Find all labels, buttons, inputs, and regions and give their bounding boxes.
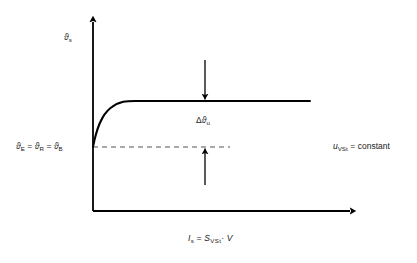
u-vst-value: constant: [358, 141, 390, 151]
y-axis-symbol: ϑ: [64, 32, 69, 42]
u-vst-subscript: VSt: [338, 145, 348, 152]
plot-canvas: [0, 0, 417, 263]
theta-equals-2: =: [44, 141, 54, 151]
theta-equals-1: =: [25, 141, 35, 151]
x-axis-equals: =: [194, 233, 204, 243]
y-axis-label: ϑs: [64, 33, 72, 42]
theta-b-subscript: B: [59, 145, 63, 152]
thermal-characteristic-diagram: ϑs Is=SVSt·V ϑE=ϑR=ϑB uVSt=constant Δϑu: [0, 0, 417, 263]
delta-theta-label: Δϑu: [196, 116, 210, 125]
theta-e-subscript: E: [21, 145, 25, 152]
u-vst-equals: =: [348, 141, 358, 151]
x-axis-label: Is=SVSt·V: [188, 234, 235, 243]
x-axis-term3-symbol: V: [224, 233, 235, 243]
theta-r-subscript: R: [39, 145, 43, 152]
theta-e-symbol: ϑ: [16, 141, 21, 151]
theta-b-symbol: ϑ: [54, 141, 59, 151]
y-axis-subscript: s: [69, 36, 72, 43]
x-axis-term1-subscript: s: [191, 237, 194, 244]
x-axis-term2-subscript: VSt: [210, 237, 221, 244]
constant-condition-label: uVSt=constant: [333, 142, 390, 151]
delta-theta-subscript: u: [206, 119, 209, 126]
baseline-temperature-label: ϑE=ϑR=ϑB: [16, 142, 63, 151]
